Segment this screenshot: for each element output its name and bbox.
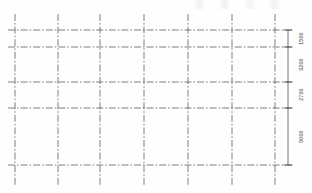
dimension-label-1500: 1500 [299, 31, 304, 45]
vertical-gridlines-group [15, 14, 275, 186]
dimension-chain-group [284, 30, 293, 165]
cad-drawing-canvas: 1500320027005000 [0, 0, 312, 193]
dimension-label-3200: 3200 [299, 57, 304, 71]
horizontal-gridlines-group [8, 30, 292, 165]
dimension-label-5000: 5000 [299, 129, 304, 143]
grid-layer [0, 0, 312, 193]
dimension-label-2700: 2700 [299, 87, 304, 101]
